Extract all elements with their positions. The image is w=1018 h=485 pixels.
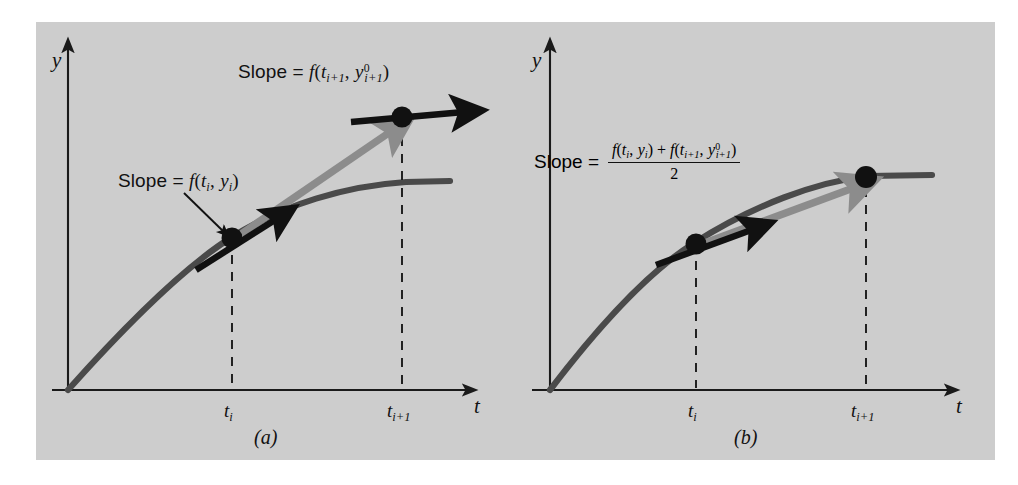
panel-a-annotation-slope-current: Slope = f(ti, yi) <box>118 170 239 195</box>
arg-t-sub: i+1 <box>326 71 345 85</box>
panel-a-solution-curve <box>68 181 450 390</box>
panel-a-point-current <box>222 228 243 249</box>
panel-b-solution-curve <box>550 175 932 390</box>
panel-a-annotation-slope-predicted: Slope = f(ti+1, y0i+1) <box>238 61 389 86</box>
panel-a-graphics <box>36 22 515 460</box>
panel-a-x-axis-label: t <box>474 394 480 419</box>
plus-sign: + <box>657 141 666 158</box>
panel-b-annotation-averaged-slope: Slope = f(ti, yi) + f(ti+1, y0i+1) 2 <box>534 140 740 185</box>
panel-b-tick-tiplus1: ti+1 <box>851 400 875 425</box>
averaged-slope-fraction: f(ti, yi) + f(ti+1, y0i+1) 2 <box>608 140 740 185</box>
panel-b: y t ti ti+1 Slope = f(ti, yi) + f(ti+1, … <box>516 22 995 460</box>
equals-sign: = <box>173 170 184 191</box>
panel-b-graphics <box>516 22 995 460</box>
close-paren-2: ) <box>731 141 736 158</box>
panel-a-callout-pointer <box>184 193 224 232</box>
equals-sign: = <box>293 61 304 82</box>
fraction-numerator: f(ti, yi) + f(ti+1, y0i+1) <box>608 140 740 163</box>
panel-a: y t ti ti+1 Slope = f(ti+1, y0i+1) Slope… <box>36 22 515 460</box>
panel-b-x-axis-label: t <box>956 394 962 419</box>
panel-b-point-current <box>686 234 707 255</box>
tick-sub: i <box>693 410 696 424</box>
tick-sub: i <box>229 410 232 424</box>
panel-a-caption: (a) <box>254 426 277 449</box>
panel-a-tick-tiplus1: ti+1 <box>387 400 411 425</box>
panel-b-caption: (b) <box>734 426 757 449</box>
tick-sub: i+1 <box>856 410 874 424</box>
arg-y: y <box>220 170 229 191</box>
panel-b-point-corrected <box>855 166 877 188</box>
equals-sign: = <box>588 151 599 173</box>
slope-word: Slope <box>118 170 167 191</box>
panel-a-point-predicted <box>392 107 413 128</box>
arg-t-2-sub: i+1 <box>684 149 699 160</box>
close-paren: ) <box>383 61 389 82</box>
arg-y-2-sub: i+1 <box>716 149 731 160</box>
panel-a-tick-ti: ti <box>224 400 233 425</box>
panel-b-tick-ti: ti <box>688 400 697 425</box>
arg-y: y <box>355 61 364 82</box>
panel-b-averaged-step-arrow <box>702 187 856 244</box>
panel-a-y-axis-label: y <box>52 48 61 73</box>
tick-sub: i+1 <box>392 410 410 424</box>
panel-a-predictor-step-arrow <box>241 130 393 234</box>
close-paren: ) <box>232 170 238 191</box>
arg-y-sub: i+1 <box>364 71 383 85</box>
arg-y-1: y <box>638 141 645 158</box>
figure-canvas: y t ti ti+1 Slope = f(ti+1, y0i+1) Slope… <box>0 0 1018 485</box>
slope-word: Slope <box>534 151 583 173</box>
slope-word: Slope <box>238 61 287 82</box>
figure-plate: y t ti ti+1 Slope = f(ti+1, y0i+1) Slope… <box>36 22 995 460</box>
panel-b-y-axis-label: y <box>532 48 541 73</box>
fraction-denominator: 2 <box>608 163 740 185</box>
